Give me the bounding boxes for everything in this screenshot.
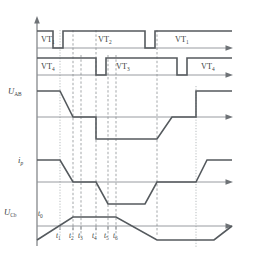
svg-text:VT1: VT1 <box>175 35 189 45</box>
label-u-ab: UAB <box>8 86 22 97</box>
svg-text:VT4: VT4 <box>201 62 215 72</box>
time-tick-labels: t0 t1 t2 t3 t4 t5 t6 <box>38 209 118 241</box>
waveform-svg: VT1 VT2 VT1 VT4 VT3 VT4 UAB ip UCb <box>0 0 253 253</box>
vt-label-base: VT <box>41 62 52 71</box>
time-label-t0: t0 <box>38 209 43 219</box>
vt-label-base: VT <box>175 35 186 44</box>
time-label-t6: t6 <box>113 231 118 241</box>
vt-label-sub: 1 <box>186 39 189 45</box>
time-axes <box>37 45 233 229</box>
vt-label-sub: 2 <box>109 39 112 45</box>
vt-label-sub: 4 <box>212 66 215 72</box>
vt-label-base: VT <box>98 35 109 44</box>
svg-text:VT2: VT2 <box>98 35 112 45</box>
svg-text:VT4: VT4 <box>41 62 55 72</box>
svg-text:VT3: VT3 <box>116 62 130 72</box>
trace-u-cb <box>37 217 232 240</box>
vt-label-base: VT <box>41 35 52 44</box>
signal-labels: UAB ip UCb <box>4 86 23 218</box>
vt-label-base: VT <box>116 62 127 71</box>
gate-row-lower-labels: VT4 VT3 VT4 <box>41 62 215 72</box>
timing-diagram-figure: VT1 VT2 VT1 VT4 VT3 VT4 UAB ip UCb <box>0 0 253 253</box>
trace-u-ab <box>37 91 232 139</box>
vt-label-sub: 3 <box>127 66 130 72</box>
vt-label-sub: 4 <box>52 66 55 72</box>
trace-vt1-gate <box>37 31 232 48</box>
label-u-cb: UCb <box>4 207 17 218</box>
vt-label-base: VT <box>201 62 212 71</box>
time-label-t3: t3 <box>78 231 83 241</box>
vt-label-sub: 1 <box>52 39 55 45</box>
label-i-p: ip <box>18 155 23 166</box>
time-tick-marks <box>60 226 116 230</box>
